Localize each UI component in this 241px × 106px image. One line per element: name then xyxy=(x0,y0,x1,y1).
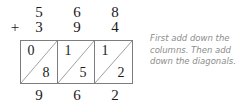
result-digit-hundreds: 9 xyxy=(20,86,58,104)
caption-line-3: down the diagonals. xyxy=(150,56,240,68)
addend-bottom-digit-hundreds: 3 xyxy=(20,17,58,37)
figure-caption: First add down the columns. Then add dow… xyxy=(150,33,240,68)
addend-row-bottom: + 3 9 4 xyxy=(0,17,140,37)
caption-line-1: First add down the xyxy=(150,33,240,45)
lattice-cell-tens: 1 5 xyxy=(58,41,95,83)
result-row: 9 6 2 xyxy=(0,86,140,106)
lattice-cell-lower-digit: 2 xyxy=(114,64,128,82)
lattice-cell-upper-digit: 0 xyxy=(24,42,38,60)
addend-bottom-digit-tens: 9 xyxy=(58,17,96,37)
result-digit-tens: 6 xyxy=(58,86,96,104)
addend-bottom-digit-ones: 4 xyxy=(96,17,134,37)
lattice-cell-hundreds: 0 8 xyxy=(21,41,58,83)
lattice-cell-ones: 1 2 xyxy=(95,41,132,83)
result-digit-ones: 2 xyxy=(96,86,134,104)
caption-line-2: columns. Then add xyxy=(150,45,240,57)
lattice-cell-upper-digit: 1 xyxy=(61,42,75,60)
lattice-grid: 0 8 1 5 1 2 xyxy=(20,40,133,84)
lattice-addition-figure: 5 6 8 + 3 9 4 0 8 1 5 1 xyxy=(0,0,241,106)
lattice-cell-upper-digit: 1 xyxy=(98,42,112,60)
lattice-cell-lower-digit: 5 xyxy=(76,64,90,82)
lattice-cell-lower-digit: 8 xyxy=(39,64,53,82)
